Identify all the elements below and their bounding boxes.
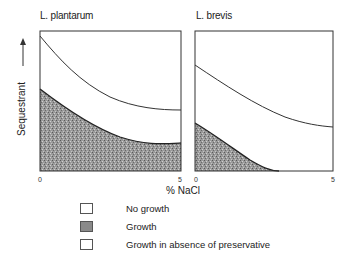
legend-label: Growth	[126, 221, 157, 232]
upper-boundary-curve	[40, 36, 181, 110]
panel-title-plantarum: L. plantarum	[40, 10, 93, 21]
x-tick-0-right: 0	[194, 176, 198, 183]
x-axis-label: % NaCl	[166, 185, 200, 196]
chart-canvas	[0, 0, 352, 262]
x-tick-5-left: 5	[178, 176, 182, 183]
legend-label: Growth in absence of preservative	[126, 239, 270, 250]
legend-swatch-growth	[80, 221, 93, 232]
y-axis-arrow-icon	[20, 38, 26, 66]
upper-boundary-curve	[195, 65, 333, 127]
y-axis-label: Sequestrant	[16, 82, 27, 136]
legend-label: No growth	[126, 203, 169, 214]
growth-area	[40, 89, 181, 171]
legend-swatch-growth-no-preservative	[80, 239, 93, 250]
x-tick-0-left: 0	[38, 176, 42, 183]
legend-swatch-no-growth	[80, 203, 93, 214]
panel-brevis	[195, 31, 333, 171]
panel-title-brevis: L. brevis	[196, 10, 232, 21]
legend-item-no-growth: No growth	[80, 201, 93, 215]
x-tick-5-right: 5	[331, 176, 335, 183]
legend-item-growth-no-preservative: Growth in absence of preservative	[80, 237, 93, 251]
panel-plantarum	[40, 31, 181, 171]
legend-item-growth: Growth	[80, 219, 93, 233]
